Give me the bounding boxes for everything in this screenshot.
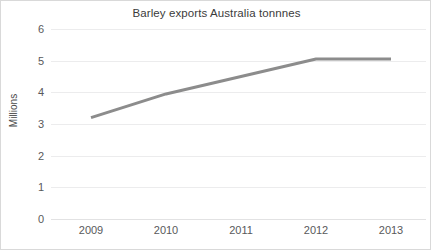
chart-screenshot: Barley exports Australia tonnnes Million… — [0, 0, 431, 250]
plot-area: 0123456 20092010201120122013 — [51, 29, 426, 219]
y-tick-label-2: 2 — [38, 150, 44, 162]
x-tick-label-2009: 2009 — [79, 224, 103, 236]
series-line-0 — [91, 59, 391, 118]
x-tick-label-2010: 2010 — [154, 224, 178, 236]
y-tick-label-0: 0 — [38, 213, 44, 225]
y-tick-label-5: 5 — [38, 55, 44, 67]
x-tick-label-2013: 2013 — [379, 224, 403, 236]
y-tick-label-1: 1 — [38, 181, 44, 193]
y-tick-label-4: 4 — [38, 86, 44, 98]
y-axis-title: Millions — [8, 81, 19, 141]
x-tick-label-2012: 2012 — [304, 224, 328, 236]
data-series-line — [51, 29, 426, 219]
x-tick-label-2011: 2011 — [229, 224, 253, 236]
gridline-0 — [51, 219, 426, 220]
y-tick-label-3: 3 — [38, 118, 44, 130]
y-tick-label-6: 6 — [38, 23, 44, 35]
chart-title: Barley exports Australia tonnnes — [1, 7, 431, 19]
